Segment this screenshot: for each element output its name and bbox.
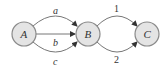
edge-2 <box>97 42 137 52</box>
node-label-a: A <box>20 28 28 40</box>
edge-1 <box>97 16 137 26</box>
node-label-c: C <box>144 28 152 40</box>
node-a: A <box>12 22 36 46</box>
node-label-b: B <box>85 28 92 40</box>
edge-a <box>33 16 77 26</box>
edge-label-1: 1 <box>114 3 119 14</box>
graph-diagram: a b c 1 2 A B C <box>0 0 166 68</box>
edge-label-2: 2 <box>114 54 119 65</box>
edge-label-b: b <box>53 37 58 48</box>
node-c: C <box>135 22 159 46</box>
node-b: B <box>76 22 100 46</box>
edge-label-a: a <box>53 5 58 16</box>
edge-label-c: c <box>53 56 58 67</box>
